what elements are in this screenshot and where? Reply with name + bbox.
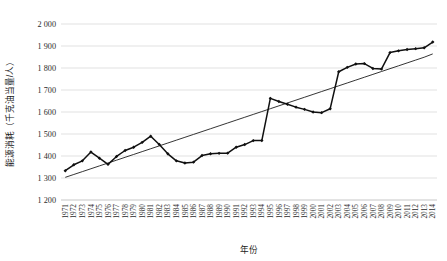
energy-consumption-line-chart: 2 000 1 900 1 800 1 700 1 600 1 500 1 40… [0,0,447,261]
y-tick-label: 1 800 [38,64,56,73]
data-point-marker [209,152,212,155]
y-axis-title: 能源消耗（千克油当量/人） [4,57,15,167]
y-tick-label: 1 700 [38,86,56,95]
energy-series-markers [64,40,435,172]
data-point-marker [303,108,306,111]
data-point-marker [405,48,408,51]
y-tick-label: 1 200 [38,196,56,205]
data-point-marker [397,49,400,52]
data-point-marker [414,47,417,50]
gridlines [61,24,437,200]
y-tick-label: 1 500 [38,130,56,139]
y-tick-label: 1 900 [38,42,56,51]
x-axis-title: 年份 [240,244,258,255]
y-axis-tick-labels: 2 000 1 900 1 800 1 700 1 600 1 500 1 40… [38,20,56,205]
y-tick-label: 1 600 [38,108,56,117]
chart-plot-area: 2 000 1 900 1 800 1 700 1 600 1 500 1 40… [0,0,447,261]
data-point-marker [311,110,314,113]
y-tick-label: 2 000 [38,20,56,29]
y-tick-label: 1 300 [38,174,56,183]
linear-trend-line [65,54,432,177]
x-axis-tick-labels: 1971197219731974197519761977197819791980… [61,204,437,219]
y-tick-label: 1 400 [38,152,56,161]
data-point-marker [183,161,186,164]
data-point-marker [260,139,263,142]
energy-series-line [65,42,432,171]
x-tick-label: 2014 [428,204,437,219]
data-point-marker [217,152,220,155]
data-point-marker [294,105,297,108]
